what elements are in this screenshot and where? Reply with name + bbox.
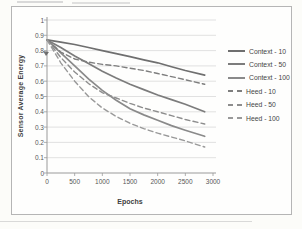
legend-dashed-line-swatch (228, 117, 242, 119)
x-axis-title: Epochs (117, 198, 142, 205)
y-tick-label: 0.2 (28, 139, 44, 146)
legend-item-context-50: Context - 50 (228, 58, 286, 70)
y-tick-label: 0.1 (28, 154, 44, 161)
y-tick-label: 0.8 (28, 47, 44, 54)
y-tick-label: 0.4 (28, 108, 44, 115)
y-tick-label: 0.5 (28, 93, 44, 100)
legend-label: Context - 100 (249, 74, 290, 81)
legend-dashed-line-swatch (228, 90, 242, 92)
y-tick-label: 0.7 (28, 62, 44, 69)
y-tick-label: 0 (28, 170, 44, 177)
legend-label: Heed - 50 (246, 101, 276, 108)
x-tick-label: 1500 (119, 178, 141, 185)
legend-solid-line-swatch (228, 50, 245, 52)
y-tick-label: 0.3 (28, 124, 44, 131)
y-tick-label: 1 (28, 17, 44, 24)
x-tick-label: 500 (64, 178, 86, 185)
y-tick-label: 0.9 (28, 32, 44, 39)
legend-label: Context - 10 (249, 48, 286, 55)
legend-dashed-line-swatch (228, 104, 242, 106)
legend-label: Heed - 10 (246, 88, 276, 95)
x-tick-label: 2000 (147, 178, 169, 185)
legend-solid-line-swatch (228, 77, 245, 79)
x-tick-label: 0 (36, 178, 58, 185)
legend-item-context-10: Context - 10 (228, 45, 286, 57)
x-tick-label: 1000 (91, 178, 113, 185)
y-tick-label: 0.6 (28, 78, 44, 85)
legend-label: Heed - 100 (246, 115, 280, 122)
legend-item-context-100: Context - 100 (228, 72, 290, 84)
x-tick-label: 2500 (174, 178, 196, 185)
x-tick-label: 3000 (202, 178, 224, 185)
y-axis-title: Sensor Average Energy (17, 55, 24, 138)
legend-item-heed-100: Heed - 100 (228, 112, 280, 124)
legend-item-heed-50: Heed - 50 (228, 99, 276, 111)
legend-solid-line-swatch (228, 63, 245, 65)
legend-label: Context - 50 (249, 61, 286, 68)
legend-item-heed-10: Heed - 10 (228, 85, 276, 97)
